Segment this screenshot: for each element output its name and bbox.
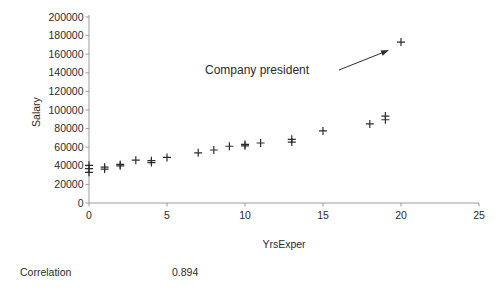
correlation-value: 0.894 bbox=[172, 266, 198, 278]
x-tick-label: 15 bbox=[317, 209, 329, 221]
annotation-label: Company president bbox=[205, 63, 310, 77]
y-tick-label: 120000 bbox=[48, 85, 83, 97]
y-tick-label: 160000 bbox=[48, 48, 83, 60]
annotation-arrowhead bbox=[381, 50, 389, 56]
x-tick-label: 5 bbox=[164, 209, 170, 221]
y-tick-label: 40000 bbox=[54, 159, 83, 171]
data-point-marker bbox=[132, 156, 140, 164]
annotation-arrow-line bbox=[339, 53, 382, 70]
y-tick-label: 20000 bbox=[54, 178, 83, 190]
data-point-marker bbox=[397, 38, 405, 46]
data-point-marker bbox=[225, 142, 233, 150]
x-tick-label: 25 bbox=[473, 209, 485, 221]
data-point-marker bbox=[116, 160, 124, 168]
data-point-marker bbox=[163, 153, 171, 161]
salary-vs-yrsexper-scatter-chart: 0200004000060000800001000001200001400001… bbox=[0, 0, 504, 256]
y-tick-label: 60000 bbox=[54, 141, 83, 153]
x-tick-label: 10 bbox=[239, 209, 251, 221]
data-point-marker bbox=[319, 127, 327, 135]
x-axis-title: YrsExper bbox=[262, 238, 306, 250]
data-point-marker bbox=[210, 146, 218, 154]
y-tick-label: 200000 bbox=[48, 11, 83, 23]
data-point-marker bbox=[366, 120, 374, 128]
data-point-marker bbox=[194, 149, 202, 157]
data-point-marker bbox=[101, 163, 109, 171]
y-tick-label: 0 bbox=[78, 197, 84, 209]
y-tick-label: 140000 bbox=[48, 66, 83, 78]
y-tick-label: 80000 bbox=[54, 122, 83, 134]
data-point-marker bbox=[147, 157, 155, 165]
y-tick-label: 180000 bbox=[48, 29, 83, 41]
x-tick-label: 20 bbox=[395, 209, 407, 221]
x-tick-label: 0 bbox=[86, 209, 92, 221]
data-point-marker bbox=[241, 140, 249, 148]
chart-page: 0200004000060000800001000001200001400001… bbox=[0, 0, 504, 290]
y-axis-title: Salary bbox=[30, 96, 42, 127]
y-tick-label: 100000 bbox=[48, 104, 83, 116]
data-point-marker bbox=[381, 112, 389, 120]
data-point-marker bbox=[257, 139, 265, 147]
correlation-label: Correlation bbox=[20, 266, 71, 278]
